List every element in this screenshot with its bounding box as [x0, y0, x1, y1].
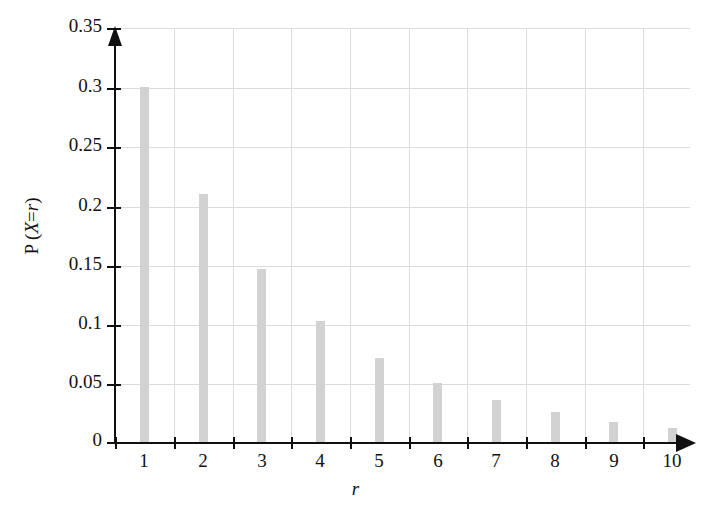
- bar-1: [140, 87, 149, 443]
- bar-7: [492, 400, 501, 443]
- x-tick-label-1: 1: [124, 450, 164, 472]
- y-tick-0.3: [107, 88, 121, 90]
- y-tick-label-0.35: 0.35: [24, 15, 102, 37]
- y-tick-0.25: [107, 147, 121, 149]
- gridline-horizontal-0.25: [115, 147, 690, 148]
- x-tick-label-6: 6: [418, 450, 458, 472]
- y-tick-label-0.1: 0.1: [24, 312, 102, 334]
- gridline-vertical-6: [467, 28, 468, 443]
- x-tick-2: [233, 437, 235, 449]
- bar-9: [609, 422, 618, 443]
- x-tick-5: [409, 437, 411, 449]
- x-tick-label-2: 2: [183, 450, 223, 472]
- x-tick-1: [174, 437, 176, 449]
- x-axis-line: [114, 442, 679, 444]
- gridline-horizontal-0.35: [115, 28, 690, 29]
- x-tick-label-10: 10: [652, 450, 692, 472]
- gridline-vertical-7: [526, 28, 527, 443]
- gridline-vertical-2: [233, 28, 234, 443]
- gridline-vertical-3: [291, 28, 292, 443]
- y-tick-0.1: [107, 325, 121, 327]
- x-tick-label-8: 8: [535, 450, 575, 472]
- y-axis-title: P (X=r): [21, 166, 43, 286]
- gridline-horizontal-0.3: [115, 88, 690, 89]
- x-axis-title: r: [0, 478, 711, 500]
- x-tick-0: [115, 437, 117, 449]
- x-tick-4: [350, 437, 352, 449]
- x-tick-label-3: 3: [242, 450, 282, 472]
- bar-6: [433, 383, 442, 443]
- gridline-vertical-5: [409, 28, 410, 443]
- x-tick-label-5: 5: [359, 450, 399, 472]
- y-tick-0.05: [107, 384, 121, 386]
- y-tick-0.35: [107, 28, 121, 30]
- y-tick-label-0: 0: [24, 429, 102, 451]
- y-axis-title-variable: X: [21, 222, 42, 234]
- bar-5: [375, 358, 384, 443]
- y-axis-title-operator: =: [21, 211, 42, 222]
- gridline-vertical-9: [643, 28, 644, 443]
- bar-4: [316, 321, 325, 443]
- plot-area: 0.35 0.3 0.25 0.2 0.15 0.1 0.05 0 1 2 3 …: [0, 0, 711, 508]
- chart-figure: 0.35 0.3 0.25 0.2 0.15 0.1 0.05 0 1 2 3 …: [0, 0, 711, 508]
- y-tick-label-0.25: 0.25: [24, 134, 102, 156]
- x-tick-label-4: 4: [300, 450, 340, 472]
- x-tick-8: [585, 437, 587, 449]
- y-tick-0.2: [107, 207, 121, 209]
- x-tick-7: [526, 437, 528, 449]
- gridline-vertical-8: [585, 28, 586, 443]
- y-axis-title-prefix: P (: [21, 234, 42, 255]
- x-tick-label-7: 7: [476, 450, 516, 472]
- x-tick-3: [291, 437, 293, 449]
- y-tick-0.15: [107, 266, 121, 268]
- y-tick-label-0.3: 0.3: [24, 75, 102, 97]
- bar-2: [199, 194, 208, 443]
- gridline-vertical-4: [350, 28, 351, 443]
- bar-8: [551, 412, 560, 443]
- x-tick-6: [467, 437, 469, 449]
- y-tick-label-0.05: 0.05: [24, 371, 102, 393]
- x-tick-label-9: 9: [594, 450, 634, 472]
- bar-3: [257, 269, 266, 443]
- x-tick-9: [643, 437, 645, 449]
- y-axis-title-index: r: [21, 204, 42, 211]
- y-axis-title-suffix: ): [21, 198, 42, 204]
- y-tick-0: [107, 442, 121, 444]
- gridline-vertical-1: [174, 28, 175, 443]
